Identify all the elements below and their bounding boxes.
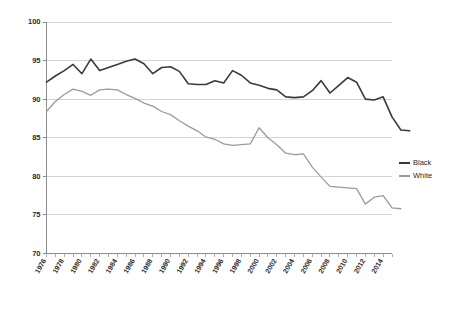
x-tick-label: 2010 [335,257,349,274]
x-tick-label: 2000 [246,257,260,274]
x-tick-label: 1990 [158,257,172,274]
line-chart: 707580859095100 197619781980198219841986… [0,0,462,336]
x-tick-labels: 1976197819801982198419861988199019921994… [34,257,385,274]
y-tick-label: 85 [32,133,40,142]
x-tick-label: 2008 [317,257,331,274]
x-tick-label: 1980 [69,257,83,274]
x-tick-label: 1988 [140,257,154,274]
x-tick-label: 1996 [211,257,225,274]
y-tick-label: 70 [32,249,40,258]
legend-label-white: White [413,171,432,180]
x-tick-label: 1998 [228,257,242,274]
x-tick-label: 1994 [193,257,207,274]
y-tick-labels: 707580859095100 [28,17,41,258]
data-series [47,59,410,209]
x-tick-label: 1984 [104,257,118,274]
legend-label-black: Black [413,158,432,167]
x-tick-label: 2006 [299,257,313,274]
x-tick-label: 1978 [51,257,65,274]
y-tick-label: 90 [32,95,40,104]
x-tick-label: 2014 [370,257,384,274]
series-line-black [47,59,410,131]
x-tick-label: 1992 [175,257,189,274]
y-tick-label: 95 [32,56,40,65]
x-tick-label: 2012 [352,257,366,274]
x-tick-label: 1976 [34,257,48,274]
x-tick-label: 2004 [282,257,296,274]
x-tick-label: 1986 [122,257,136,274]
x-tick-label: 1982 [87,257,101,274]
x-tick-label: 2002 [264,257,278,274]
y-tick-label: 100 [28,17,41,26]
y-tick-label: 80 [32,172,40,181]
x-axis [47,254,393,257]
y-tick-label: 75 [32,210,40,219]
chart-legend: BlackWhite [399,158,432,180]
gridlines [43,22,392,254]
series-line-white [47,89,401,209]
chart-canvas: 707580859095100 197619781980198219841986… [0,0,462,336]
